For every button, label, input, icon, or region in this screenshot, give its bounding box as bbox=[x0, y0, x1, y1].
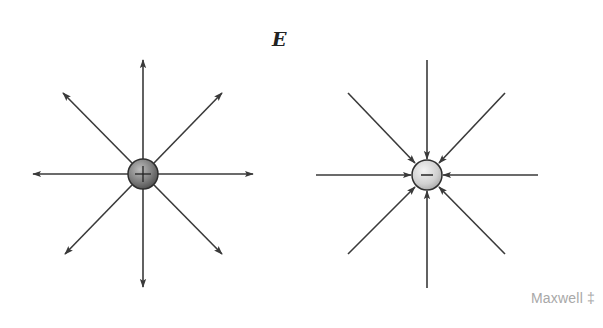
field-line-down-left bbox=[65, 185, 132, 254]
field-line-from-up-right bbox=[439, 93, 505, 163]
field-line-up-right bbox=[154, 93, 222, 163]
negative-charge bbox=[412, 160, 442, 190]
field-line-from-down-left bbox=[348, 187, 415, 254]
electric-field-diagram bbox=[0, 0, 603, 328]
watermark-text: Maxwell ‡ bbox=[531, 290, 595, 306]
field-line-down-right bbox=[154, 185, 222, 254]
positive-charge bbox=[128, 159, 158, 189]
field-line-from-up-left bbox=[348, 93, 415, 163]
field-line-from-down-right bbox=[439, 187, 505, 254]
field-line-up-left bbox=[63, 93, 132, 163]
